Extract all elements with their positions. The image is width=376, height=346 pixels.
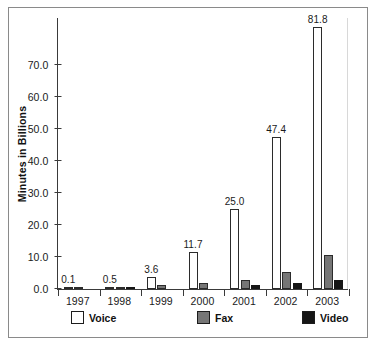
bar-voice-1998: 0.5 [105,287,114,290]
x-axis-label-1998: 1998 [107,295,131,307]
bar-value-label: 47.4 [266,124,286,135]
bar-voice-2002: 47.4 [272,137,281,289]
bar-video-2002 [293,283,302,289]
legend-swatch-fax-icon [197,311,210,324]
y-axis-tick: 20.0 [55,224,62,225]
bar-voice-1999: 3.6 [147,277,156,289]
bar-fax-1997 [74,287,83,290]
y-axis-tick-label: 20.0 [28,219,49,231]
y-axis-tick: 50.0 [55,128,62,129]
bar-fax-2001 [241,280,250,289]
y-axis-tick: 10.0 [55,256,62,257]
x-axis-label-2000: 2000 [191,295,215,307]
y-axis-tick: 40.0 [55,160,62,161]
bar-value-label: 3.6 [144,264,158,275]
x-axis-label-1999: 1999 [149,295,173,307]
y-axis-tick: 60.0 [55,96,62,97]
legend-label: Voice [89,312,116,324]
x-axis-tick [58,289,59,296]
x-axis-label-1997: 1997 [66,295,90,307]
chart-legend: VoiceFaxVideo [57,311,348,331]
bar-voice-2000: 11.7 [189,252,198,289]
bar-value-label: 0.1 [61,274,75,285]
y-axis-tick: 70.0 [55,64,62,65]
x-axis-tick [349,289,350,296]
bar-video-2003 [334,280,343,289]
bar-value-label: 81.8 [308,14,328,25]
plot-area: 0.010.020.030.040.050.060.070.00.10.53.6… [57,18,348,290]
y-axis-tick: 30.0 [55,192,62,193]
x-axis-tick [100,289,101,296]
x-axis-tick [224,289,225,296]
bar-voice-2001: 25.0 [230,209,239,289]
bar-fax-2000 [199,283,208,289]
bar-fax-1999 [157,285,166,289]
bar-fax-2002 [282,272,291,289]
legend-swatch-video-icon [302,311,315,324]
y-axis-tick-label: 70.0 [28,59,49,71]
x-axis-tick [266,289,267,296]
bar-fax-1998 [116,287,125,290]
legend-item-video: Video [302,311,348,324]
bar-fax-2003 [324,255,333,289]
bar-value-label: 11.7 [183,239,202,250]
x-axis-label-2002: 2002 [274,295,298,307]
x-axis-tick [183,289,184,296]
y-axis-tick-label: 10.0 [28,251,49,263]
legend-label: Fax [215,312,233,324]
bar-voice-2003: 81.8 [313,27,322,289]
bar-video-1998 [126,287,135,290]
legend-item-fax: Fax [197,311,233,324]
bar-voice-1997: 0.1 [64,287,73,290]
bar-value-label: 0.5 [103,274,117,285]
y-axis-tick-label: 60.0 [28,91,49,103]
y-axis-tick-label: 50.0 [28,123,49,135]
y-axis-tick-label: 40.0 [28,155,49,167]
y-axis-title-text: Minutes in Billions [16,106,28,203]
chart-figure: Minutes in Billions 0.010.020.030.040.05… [0,0,376,346]
x-axis-tick [141,289,142,296]
legend-swatch-voice-icon [71,311,84,324]
x-axis-tick [307,289,308,296]
x-axis-label-2001: 2001 [232,295,256,307]
bar-value-label: 25.0 [225,196,245,207]
x-axis-label-2003: 2003 [315,295,339,307]
legend-label: Video [320,312,348,324]
y-axis-tick-label: 0.0 [34,283,49,295]
bar-video-2001 [251,285,260,289]
y-axis-tick-label: 30.0 [28,187,49,199]
legend-item-voice: Voice [71,311,116,324]
